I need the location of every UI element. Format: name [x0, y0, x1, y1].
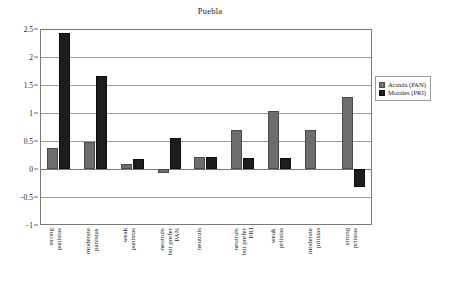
- x-axis-tick-label: neutrals but prefer PRI: [233, 228, 256, 255]
- bar-group: [224, 29, 261, 225]
- bar: [342, 97, 353, 169]
- bar-group: [77, 29, 114, 225]
- bar: [96, 76, 107, 169]
- bar: [47, 148, 58, 169]
- bar: [84, 142, 95, 169]
- x-axis-tick-label: neutrals: [196, 228, 204, 250]
- y-axis-tick-mark: [34, 29, 38, 30]
- y-axis-tick-mark: [34, 85, 38, 86]
- bar: [194, 157, 205, 169]
- y-axis-tick-label: 0.5: [24, 137, 33, 146]
- x-axis-tick-label: strong panistas: [48, 228, 63, 251]
- bar: [305, 130, 316, 169]
- legend-item: Aranda (PAN): [379, 81, 426, 88]
- x-axis-tick-label: strong priístas: [344, 228, 359, 248]
- bar-group: [188, 29, 225, 225]
- bar-group: [151, 29, 188, 225]
- x-axis-labels: strong panistasmoderate panistasweak pan…: [40, 228, 372, 293]
- bar-group: [298, 29, 335, 225]
- bar: [170, 138, 181, 169]
- chart-title: Puebla: [0, 6, 420, 16]
- x-axis-tick-label: moderate panistas: [85, 228, 100, 254]
- legend-item-label: Morales (PRI): [388, 89, 426, 96]
- bar: [354, 169, 365, 187]
- y-axis-tick-label: 1: [29, 109, 33, 118]
- bar: [59, 33, 70, 169]
- bar: [121, 164, 132, 169]
- legend-item: Morales (PRI): [379, 89, 426, 96]
- bar-group: [335, 29, 372, 225]
- y-axis-tick-mark: [34, 113, 38, 114]
- bar: [206, 157, 217, 169]
- x-axis-tick-label: weak panistas: [122, 228, 137, 251]
- chart-container: Puebla 2.521.510.50−0.5−1 strong panista…: [0, 0, 449, 293]
- y-axis-tick-mark: [34, 141, 38, 142]
- bar-group: [261, 29, 298, 225]
- y-axis-tick-label: 2: [29, 53, 33, 62]
- legend-item-label: Aranda (PAN): [388, 81, 426, 88]
- bar-group: [114, 29, 151, 225]
- y-axis: 2.521.510.50−0.5−1: [0, 29, 38, 225]
- bar: [268, 111, 279, 169]
- bar: [158, 169, 169, 173]
- y-axis-tick-label: 2.5: [24, 25, 33, 34]
- x-axis-tick-label: neutrals but prefer PAN: [159, 228, 182, 255]
- chart-legend: Aranda (PAN) Morales (PRI): [375, 76, 431, 101]
- bar-series-layer: [40, 29, 372, 225]
- y-axis-tick-mark: [34, 169, 38, 170]
- y-axis-tick-label: −1: [25, 221, 33, 230]
- y-axis-tick-mark: [34, 225, 38, 226]
- y-axis-tick-label: 1.5: [24, 81, 33, 90]
- x-axis-tick-label: moderate priístas: [307, 228, 322, 254]
- y-axis-tick-mark: [34, 197, 38, 198]
- y-axis-tick-label: −0.5: [19, 193, 33, 202]
- legend-swatch-icon: [379, 90, 385, 96]
- bar-group: [40, 29, 77, 225]
- bar: [243, 158, 254, 169]
- y-axis-tick-mark: [34, 57, 38, 58]
- legend-swatch-icon: [379, 82, 385, 88]
- x-axis-tick-label: weak priístas: [270, 228, 285, 248]
- bar: [133, 159, 144, 169]
- bar: [231, 130, 242, 169]
- y-axis-tick-label: 0: [29, 165, 33, 174]
- bar: [280, 158, 291, 169]
